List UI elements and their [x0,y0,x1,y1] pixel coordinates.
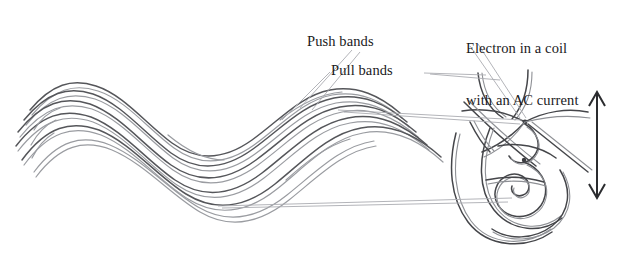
label-electron-coil-line1: Electron in a coil [466,40,579,57]
wave-band-stroke [18,101,416,178]
wave-band-group [16,83,443,222]
coil-curve [492,170,568,237]
coil-spiral [495,162,546,217]
wave-band-stroke [24,131,443,211]
wave-band-stroke [22,126,441,206]
label-electron-coil-line2: with an AC current [466,92,579,109]
wave-band-stroke [18,118,429,197]
coil-curve [498,145,556,159]
label-electron-coil: Electron in a coil with an AC current [466,6,579,143]
physics-diagram-figure: Push bands Pull bands Electron in a coil… [0,0,629,253]
coil-spiral [497,165,547,219]
oscillation-arrow [589,92,605,198]
label-push-bands: Push bands [307,33,374,50]
label-pull-bands: Pull bands [331,62,393,79]
